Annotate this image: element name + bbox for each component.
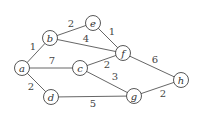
node-label: g [131,91,137,102]
edge-d-g [51,96,134,97]
node-f: f [116,46,131,61]
node-e: e [86,16,101,31]
node-label: a [19,63,25,74]
node-label: b [47,33,53,44]
edge-weight-g-h: 2 [160,88,166,99]
weighted-graph: 17224123562 abefcdgh [0,0,202,121]
node-label: h [178,75,184,86]
node-a: a [15,61,30,76]
node-label: e [90,18,96,29]
edge-weight-f-h: 6 [152,54,158,65]
node-b: b [43,31,58,46]
edge-weight-c-g: 3 [112,71,118,82]
edge-weight-b-e: 2 [68,18,74,29]
node-g: g [127,89,142,104]
node-d: d [44,90,59,105]
edge-weight-e-f: 1 [109,26,115,37]
node-label: d [48,92,54,103]
node-c: c [73,61,88,76]
edge-weight-b-f: 4 [83,33,89,44]
edge-weight-c-f: 2 [104,59,110,70]
edge-weight-a-d: 2 [28,81,34,92]
edge-weight-a-b: 1 [30,41,36,52]
edge-c-g [80,68,134,96]
edge-weight-d-g: 5 [90,98,96,109]
node-label: c [77,63,83,74]
edge-weight-a-c: 7 [49,55,55,66]
node-h: h [174,73,189,88]
